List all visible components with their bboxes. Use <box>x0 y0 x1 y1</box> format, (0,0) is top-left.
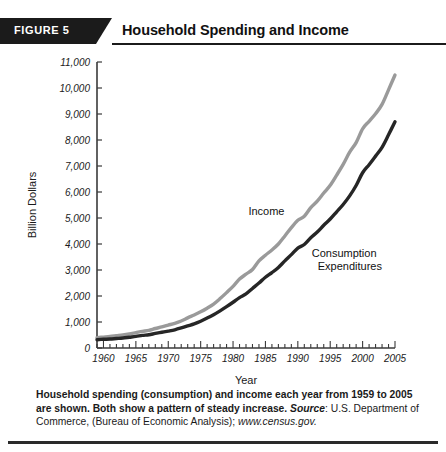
y-tick-label: 11,000 <box>60 57 90 68</box>
series-label-income: Income <box>248 205 284 217</box>
y-tick-label: 7,000 <box>65 161 90 172</box>
x-tick-label: 1995 <box>319 353 342 364</box>
x-tick-label: 1960 <box>92 353 115 364</box>
y-axis-ticks: 01,0002,0003,0004,0005,0006,0007,0008,00… <box>59 57 102 354</box>
series-label-consumption-line2: Expenditures <box>318 260 383 272</box>
line-chart: 01,0002,0003,0004,0005,0006,0007,0008,00… <box>0 48 446 388</box>
x-axis-title: Year <box>235 374 258 386</box>
y-tick-label: 1,000 <box>65 317 90 328</box>
y-tick-label: 8,000 <box>65 135 90 146</box>
y-tick-label: 2,000 <box>64 291 90 302</box>
x-axis-ticks: 1960196519701975198019851990199520002005 <box>92 341 406 364</box>
figure-title: Household Spending and Income <box>122 22 349 38</box>
x-tick-label: 2000 <box>350 353 374 364</box>
bottom-divider <box>8 441 438 444</box>
series-line-income <box>97 75 395 338</box>
caption-source-word: Source <box>290 403 325 414</box>
y-tick-label: 3,000 <box>65 265 90 276</box>
series-label-consumption-line1: Consumption <box>312 247 377 259</box>
figure-badge-label: FIGURE 5 <box>14 24 70 36</box>
x-tick-label: 1980 <box>222 353 245 364</box>
y-tick-label: 4,000 <box>65 239 90 250</box>
figure-header: FIGURE 5 Household Spending and Income <box>0 18 446 44</box>
y-tick-label: 10,000 <box>59 83 90 94</box>
y-tick-label: 0 <box>84 343 90 354</box>
x-tick-label: 1990 <box>287 353 310 364</box>
x-tick-label: 1970 <box>157 353 180 364</box>
y-tick-label: 6,000 <box>65 187 90 198</box>
header-divider <box>112 43 446 45</box>
x-tick-label: 2005 <box>383 353 407 364</box>
figure-caption: Household spending (consumption) and inc… <box>36 388 422 429</box>
chart-container: 01,0002,0003,0004,0005,0006,0007,0008,00… <box>0 48 446 388</box>
y-axis-title: Billion Dollars <box>26 171 38 238</box>
y-tick-label: 9,000 <box>65 109 90 120</box>
y-tick-label: 5,000 <box>65 213 90 224</box>
x-tick-label: 1965 <box>125 353 148 364</box>
x-tick-label: 1975 <box>190 353 213 364</box>
x-tick-label: 1985 <box>254 353 277 364</box>
caption-source-url: www.census.gov. <box>238 416 317 427</box>
